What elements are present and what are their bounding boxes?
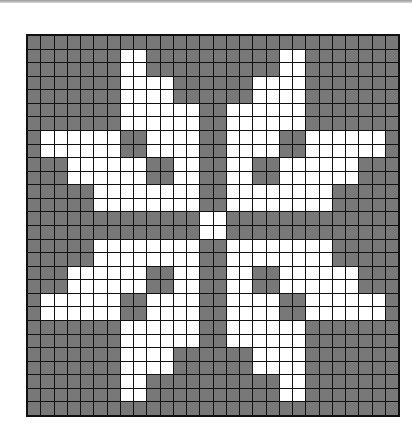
grid-cell-motif <box>134 117 146 130</box>
grid-cell-background <box>214 240 226 253</box>
grid-cell-background <box>359 117 371 130</box>
grid-cell-background <box>147 402 159 415</box>
grid-cell-background <box>55 50 67 63</box>
grid-cell-background <box>94 375 106 388</box>
grid-cell-background <box>41 172 53 185</box>
grid-cell-motif <box>94 145 106 158</box>
grid-cell-background <box>227 389 239 402</box>
grid-cell-background <box>108 36 120 49</box>
grid-cell-motif <box>147 335 159 348</box>
grid-cell-motif <box>108 267 120 280</box>
grid-cell-motif <box>306 253 318 266</box>
grid-cell-motif <box>253 117 265 130</box>
grid-cell-motif <box>346 307 358 320</box>
grid-cell-background <box>41 267 53 280</box>
grid-cell-background <box>68 212 80 225</box>
grid-cell-motif <box>134 77 146 90</box>
grid-cell-background <box>200 104 212 117</box>
grid-cell-motif <box>108 253 120 266</box>
grid-cell-motif <box>68 145 80 158</box>
grid-cell-background <box>386 212 398 225</box>
grid-cell-motif <box>187 117 199 130</box>
grid-cell-background <box>55 199 67 212</box>
grid-cell-background <box>108 389 120 402</box>
grid-cell-background <box>267 50 279 63</box>
grid-cell-background <box>320 348 332 361</box>
grid-cell-background <box>267 389 279 402</box>
grid-cell-background <box>161 267 173 280</box>
grid-cell-motif <box>240 145 252 158</box>
grid-cell-motif <box>240 104 252 117</box>
grid-cell-motif <box>227 307 239 320</box>
grid-cell-background <box>320 77 332 90</box>
grid-cell-background <box>346 348 358 361</box>
grid-cell-background <box>41 90 53 103</box>
grid-cell-background <box>346 36 358 49</box>
grid-cell-motif <box>320 185 332 198</box>
grid-cell-background <box>55 375 67 388</box>
grid-cell-motif <box>55 307 67 320</box>
grid-cell-motif <box>121 280 133 293</box>
grid-cell-motif <box>333 145 345 158</box>
grid-cell-background <box>306 335 318 348</box>
grid-cell-background <box>174 402 186 415</box>
grid-cell-background <box>386 145 398 158</box>
grid-cell-background <box>134 294 146 307</box>
grid-cell-motif <box>187 335 199 348</box>
grid-cell-background <box>68 50 80 63</box>
grid-cell-background <box>55 185 67 198</box>
grid-cell-motif <box>108 280 120 293</box>
grid-cell-background <box>161 36 173 49</box>
grid-cell-background <box>320 117 332 130</box>
grid-cell-background <box>359 158 371 171</box>
grid-cell-background <box>386 50 398 63</box>
grid-cell-motif <box>306 240 318 253</box>
grid-cell-background <box>306 402 318 415</box>
grid-cell-motif <box>267 77 279 90</box>
grid-cell-background <box>386 240 398 253</box>
grid-cell-background <box>214 294 226 307</box>
grid-cell-background <box>227 63 239 76</box>
grid-cell-background <box>81 199 93 212</box>
grid-cell-background <box>227 212 239 225</box>
grid-cell-background <box>28 362 40 375</box>
grid-cell-background <box>306 348 318 361</box>
grid-cell-background <box>68 240 80 253</box>
grid-cell-background <box>214 185 226 198</box>
grid-cell-motif <box>134 335 146 348</box>
grid-cell-background <box>28 240 40 253</box>
grid-cell-background <box>108 90 120 103</box>
grid-cell-background <box>346 212 358 225</box>
grid-cell-background <box>68 77 80 90</box>
grid-cell-motif <box>227 104 239 117</box>
grid-cell-motif <box>280 240 292 253</box>
grid-cell-background <box>108 375 120 388</box>
grid-cell-background <box>386 185 398 198</box>
grid-cell-motif <box>68 267 80 280</box>
grid-cell-background <box>41 226 53 239</box>
grid-cell-background <box>346 226 358 239</box>
grid-cell-background <box>94 321 106 334</box>
grid-cell-background <box>55 90 67 103</box>
grid-cell-motif <box>240 158 252 171</box>
grid-cell-background <box>214 131 226 144</box>
grid-cell-background <box>306 63 318 76</box>
grid-cell-motif <box>147 307 159 320</box>
grid-cell-background <box>200 63 212 76</box>
grid-cell-motif <box>161 240 173 253</box>
grid-cell-motif <box>293 104 305 117</box>
grid-cell-background <box>28 158 40 171</box>
grid-cell-motif <box>161 131 173 144</box>
grid-cell-motif <box>81 172 93 185</box>
grid-cell-motif <box>174 104 186 117</box>
grid-cell-background <box>333 335 345 348</box>
grid-cell-motif <box>214 226 226 239</box>
grid-cell-motif <box>121 321 133 334</box>
grid-cell-motif <box>240 199 252 212</box>
grid-cell-background <box>108 335 120 348</box>
grid-cell-background <box>346 77 358 90</box>
grid-cell-background <box>253 63 265 76</box>
grid-cell-background <box>55 335 67 348</box>
grid-cell-background <box>41 402 53 415</box>
grid-cell-motif <box>174 240 186 253</box>
